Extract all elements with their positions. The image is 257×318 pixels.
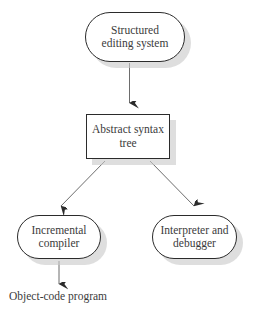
node-line-1: Incremental <box>32 224 87 236</box>
node-label-structured-editing-system: Structuredediting system <box>98 24 173 51</box>
node-line-2: compiler <box>39 237 80 249</box>
node-line-2: editing system <box>102 37 169 49</box>
label-object-code-program: Object-code program <box>9 290 107 302</box>
edge-ast-to-interpreter <box>150 161 194 206</box>
node-line-2: tree <box>119 137 136 149</box>
node-line-1: Interpreter and <box>160 224 228 236</box>
node-line-2: debugger <box>173 237 216 249</box>
node-incremental-compiler[interactable]: Incrementalcompiler <box>17 215 101 259</box>
diagram-canvas: Structuredediting system Abstract syntax… <box>0 0 257 318</box>
node-structured-editing-system[interactable]: Structuredediting system <box>85 12 185 62</box>
node-line-1: Abstract syntax <box>92 123 164 135</box>
node-interpreter-and-debugger[interactable]: Interpreter anddebugger <box>152 215 237 259</box>
node-line-1: Structured <box>111 24 159 36</box>
node-label-interpreter-and-debugger: Interpreter anddebugger <box>156 224 232 251</box>
node-label-abstract-syntax-tree: Abstract syntaxtree <box>88 123 168 150</box>
node-abstract-syntax-tree[interactable]: Abstract syntaxtree <box>86 114 170 159</box>
edge-ast-to-compiler <box>61 161 105 206</box>
node-label-incremental-compiler: Incrementalcompiler <box>28 224 91 251</box>
